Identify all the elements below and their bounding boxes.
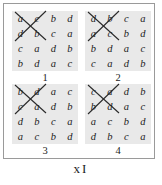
grid-cell: b [85, 99, 102, 114]
grid-panel-1: a c b d d b c a c a d b b d a c [12, 11, 78, 84]
grid-cell: b [12, 84, 29, 99]
grid-cell: c [62, 84, 79, 99]
grid-row: c a d b [85, 84, 151, 99]
grid-cell: b [102, 129, 119, 144]
grid-cell: d [102, 99, 119, 114]
grid-row: b d a c [85, 41, 151, 56]
grid-cell: c [45, 114, 62, 129]
grid-row: c a d b [12, 99, 78, 114]
figure-frame: a c b d d b c a c a d b b d a c [3, 3, 155, 159]
grid-cell: a [118, 99, 135, 114]
grid-cell: c [135, 41, 152, 56]
grid-cell: c [45, 26, 62, 41]
grid-row: b d a c [12, 56, 78, 71]
grid-cell: a [135, 129, 152, 144]
grid-cell: a [135, 11, 152, 26]
grid-cell: a [29, 99, 46, 114]
grid-cell: b [102, 11, 119, 26]
grid-cell: d [45, 99, 62, 114]
grid-row: c a d b [12, 41, 78, 56]
caption-x: x [74, 161, 83, 176]
grid-row: a c b d [12, 129, 78, 144]
grid-cell: c [29, 129, 46, 144]
grid-cell: d [135, 26, 152, 41]
grid-cell: a [12, 11, 29, 26]
grid-row: a c b d [85, 114, 151, 129]
grid-cell: a [85, 114, 102, 129]
grid-panel-4: c a d b b d a c a c b d d b c a [85, 84, 151, 157]
grid-cell: d [29, 84, 46, 99]
grid-cell: b [118, 26, 135, 41]
grid-cell: b [135, 56, 152, 71]
grid-cell: d [135, 114, 152, 129]
panel-label: 3 [12, 145, 78, 157]
grid-cell: c [102, 114, 119, 129]
panel-label: 4 [85, 145, 151, 157]
grid-row: d b c a [12, 26, 78, 41]
grid-cell: b [45, 11, 62, 26]
grid-cell: c [118, 11, 135, 26]
letter-grid-1: a c b d d b c a c a d b b d a c [12, 11, 78, 71]
grid-row: b d a c [85, 99, 151, 114]
grid-cell: b [29, 26, 46, 41]
grid-row: a c b d [85, 26, 151, 41]
grid-cell: c [85, 84, 102, 99]
grid-cell: d [12, 26, 29, 41]
grid-cell: d [118, 56, 135, 71]
grid-row: d b c a [85, 11, 151, 26]
grid-cell: d [45, 41, 62, 56]
grid-row: b d a c [12, 84, 78, 99]
grid-cell: d [118, 84, 135, 99]
grid-cell: a [102, 56, 119, 71]
grid-panel-2: d b c a a c b d b d a c c a d b [85, 11, 151, 84]
grid-row: c a d b [85, 56, 151, 71]
grid-cell: b [12, 56, 29, 71]
grid-cell: b [62, 99, 79, 114]
grid-cell: c [102, 26, 119, 41]
grid-cell: b [118, 114, 135, 129]
grid-cell: a [45, 84, 62, 99]
grid-cell: c [62, 56, 79, 71]
letter-grid-2: d b c a a c b d b d a c c a d b [85, 11, 151, 71]
grid-cell: a [85, 26, 102, 41]
grid-cell: c [29, 11, 46, 26]
grid-cell: d [62, 11, 79, 26]
letter-grid-3: b d a c c a d b d b c a a c b d [12, 84, 78, 144]
grid-cell: c [135, 99, 152, 114]
panel-label: 1 [12, 72, 78, 84]
grid-row: d b c a [12, 114, 78, 129]
grid-cell: c [12, 99, 29, 114]
letter-grid-4: c a d b b d a c a c b d d b c a [85, 84, 151, 144]
grid-cell: c [85, 56, 102, 71]
caption-i: I [82, 161, 88, 176]
grid-cell: a [62, 26, 79, 41]
grid-cell: c [118, 129, 135, 144]
grid-cell: b [135, 84, 152, 99]
grid-cell: d [62, 129, 79, 144]
grid-cell: d [102, 41, 119, 56]
grid-cell: c [12, 41, 29, 56]
grid-cell: a [62, 114, 79, 129]
grid-cell: d [85, 11, 102, 26]
grid-cell: a [45, 56, 62, 71]
grid-cell: b [45, 129, 62, 144]
grid-cell: b [29, 114, 46, 129]
grid-row: a c b d [12, 11, 78, 26]
figure-caption: xI [0, 161, 162, 177]
grid-cell: a [29, 41, 46, 56]
grid-panel-3: b d a c c a d b d b c a a c b d [12, 84, 78, 157]
grid-cell: b [85, 41, 102, 56]
grid-row: d b c a [85, 129, 151, 144]
grid-cell: b [62, 41, 79, 56]
grid-cell: a [102, 84, 119, 99]
grid-cell: a [12, 129, 29, 144]
grid-cell: d [29, 56, 46, 71]
grid-cell: d [85, 129, 102, 144]
panel-label: 2 [85, 72, 151, 84]
grid-cell: d [12, 114, 29, 129]
grid-cell: a [118, 41, 135, 56]
